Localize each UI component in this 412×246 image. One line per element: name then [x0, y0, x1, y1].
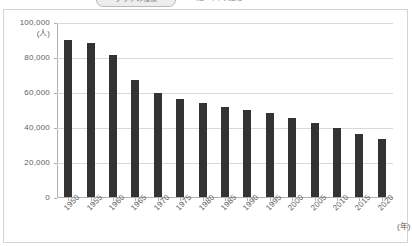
chart-container: 100,00080,00060,00040,00020,0000(人)19501…: [3, 9, 408, 243]
bar: [87, 43, 95, 197]
y-tick-mark: [54, 93, 57, 94]
gridline: [57, 23, 393, 24]
bar: [243, 110, 251, 198]
bar: [378, 139, 386, 197]
bar: [131, 80, 139, 197]
y-axis-tick-label: 40,000: [6, 123, 50, 132]
bar: [288, 118, 296, 197]
bar: [311, 123, 319, 197]
bar: [109, 55, 117, 197]
gridline: [57, 93, 393, 94]
y-axis-tick-label: 0: [6, 193, 50, 202]
y-tick-mark: [54, 58, 57, 59]
y-tick-mark: [54, 23, 57, 24]
y-axis-line: [57, 23, 58, 198]
gridline: [57, 58, 393, 59]
bar: [64, 40, 72, 198]
y-axis-tick-label: 100,000: [6, 18, 50, 27]
top-header-strip: グラフの種類 総人口の推移: [0, 0, 412, 7]
bar: [154, 93, 162, 197]
y-axis-unit-label: (人): [6, 27, 50, 38]
y-axis-tick-label: 80,000: [6, 53, 50, 62]
bar: [266, 113, 274, 197]
bar: [199, 103, 207, 197]
x-axis-unit-label: (年): [397, 220, 410, 231]
bar: [333, 128, 341, 197]
y-tick-mark: [54, 128, 57, 129]
y-tick-mark: [54, 198, 57, 199]
y-axis-tick-label: 20,000: [6, 158, 50, 167]
bar: [355, 134, 363, 197]
chart-heading: 総人口の推移: [196, 0, 244, 2]
y-axis-tick-label: 60,000: [6, 88, 50, 97]
bar: [221, 107, 229, 197]
chart-type-dropdown[interactable]: グラフの種類: [96, 0, 176, 7]
y-tick-mark: [54, 163, 57, 164]
bar: [176, 99, 184, 197]
plot-area: [57, 23, 393, 198]
